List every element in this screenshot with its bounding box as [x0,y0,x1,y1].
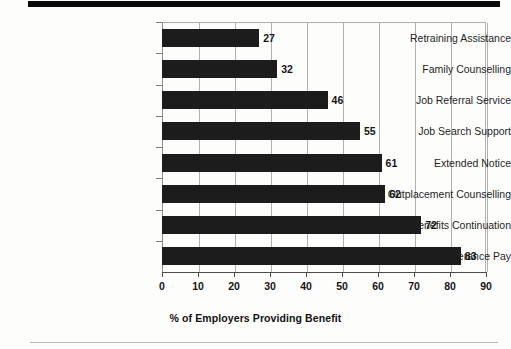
x-tick-label-20: 20 [214,280,254,292]
value-label: 46 [332,94,344,106]
x-axis-line [162,272,487,273]
category-label: Severance Pay [355,250,511,262]
bar [162,122,360,140]
category-label: Extended Notice [355,157,511,169]
value-label: 72 [425,219,437,231]
x-tick-30 [270,272,271,277]
bar [162,185,385,203]
x-tick-40 [306,272,307,277]
x-tick-50 [342,272,343,277]
category-label: Job Referral Service [355,94,511,106]
bar [162,154,382,172]
x-tick-80 [450,272,451,277]
bar [162,60,277,78]
category-label: Outplacement Counselling [355,188,511,200]
value-label: 62 [389,188,401,200]
x-tick-label-30: 30 [250,280,290,292]
x-tick-label-90: 90 [466,280,506,292]
bar [162,29,259,47]
x-tick-0 [162,272,163,277]
x-tick-label-70: 70 [394,280,434,292]
x-tick-60 [378,272,379,277]
x-tick-label-60: 60 [358,280,398,292]
value-label: 83 [465,250,477,262]
value-label: 61 [386,157,398,169]
bottom-horizontal-rule [30,342,498,343]
category-label: Retraining Assistance [355,32,511,44]
x-tick-label-10: 10 [178,280,218,292]
bar [162,91,328,109]
x-tick-90 [486,272,487,277]
value-label: 55 [364,125,376,137]
top-horizontal-rule [28,1,500,7]
x-tick-label-40: 40 [286,280,326,292]
x-tick-label-0: 0 [142,280,182,292]
x-tick-label-50: 50 [322,280,362,292]
x-tick-20 [234,272,235,277]
category-label: Family Counselling [355,63,511,75]
x-tick-70 [414,272,415,277]
value-label: 32 [281,63,293,75]
x-axis-title: % of Employers Providing Benefit [0,312,511,324]
bar-series [162,22,486,272]
value-label: 27 [263,32,275,44]
x-tick-label-80: 80 [430,280,470,292]
category-label: Job Search Support [355,125,511,137]
x-tick-10 [198,272,199,277]
gridline-90 [487,23,488,272]
